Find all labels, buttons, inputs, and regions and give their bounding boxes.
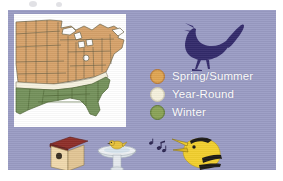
scan-artifact <box>56 2 62 7</box>
legend-label-winter: Winter <box>172 106 206 119</box>
birdhouse-icon <box>46 132 90 170</box>
legend-label-year-round: Year-Round <box>172 88 234 101</box>
legend-label-spring-summer: Spring/Summer <box>172 70 253 83</box>
legend-swatch-winter <box>150 105 165 120</box>
goldfinch-head-icon <box>166 134 224 170</box>
figure-root: Spring/Summer Year-Round Winter <box>0 0 283 181</box>
birdbath-icon <box>96 134 138 170</box>
range-map <box>14 14 126 127</box>
legend-item-year-round: Year-Round <box>150 86 272 102</box>
legend-item-spring-summer: Spring/Summer <box>150 68 272 84</box>
legend-swatch-spring-summer <box>150 69 165 84</box>
legend-swatch-year-round <box>150 87 165 102</box>
legend-item-winter: Winter <box>150 104 272 120</box>
seasonal-range-legend: Spring/Summer Year-Round Winter <box>150 68 272 122</box>
scan-artifact <box>29 1 37 7</box>
wren-silhouette-icon <box>168 15 246 73</box>
illustration-panel: Spring/Summer Year-Round Winter <box>8 10 276 170</box>
